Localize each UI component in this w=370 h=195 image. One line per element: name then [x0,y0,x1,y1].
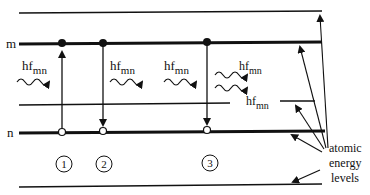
photon-label-3-out-a: hfmn [239,59,262,76]
electron-hole-2-lower [100,128,107,135]
pointer-bottom-level [293,170,320,182]
electron-dot-3-upper [203,38,211,46]
photon-wave-3-incident-icon [164,79,196,85]
level-label-n: n [7,125,14,140]
annotation-line-3: levels [331,171,359,185]
pointer-n-level [292,135,322,152]
electron-hole-3-lower [204,127,211,134]
process-number-2: 2 [101,158,107,170]
photon-label-3-out-b: hfmn [246,94,269,111]
process-number-3: 3 [207,157,213,169]
energy-level-bottom [19,184,322,187]
photon-label-3-incident: hfmn [164,58,189,76]
photon-wave-3-out-b-icon [215,85,247,91]
electron-dot-2-upper [99,39,107,47]
energy-level-diagram: m n hfmn hfmn hfmn hfmn hfmn 1 2 3 atomi… [0,0,370,195]
pointer-mid-level [296,106,324,149]
process-number-1: 1 [61,158,67,170]
photon-wave-1-icon [17,79,49,85]
photon-label-2: hfmn [110,58,135,76]
photon-wave-2-icon [110,79,142,85]
electron-dot-1-upper [58,39,66,47]
annotation-line-2: energy [329,156,361,170]
electron-hole-1-lower [59,129,66,136]
photon-label-1: hfmn [22,58,47,76]
annotation-line-1: atomic [329,141,362,155]
level-label-m: m [6,36,16,51]
energy-level-top [19,11,322,13]
energy-level-mid [19,103,230,105]
